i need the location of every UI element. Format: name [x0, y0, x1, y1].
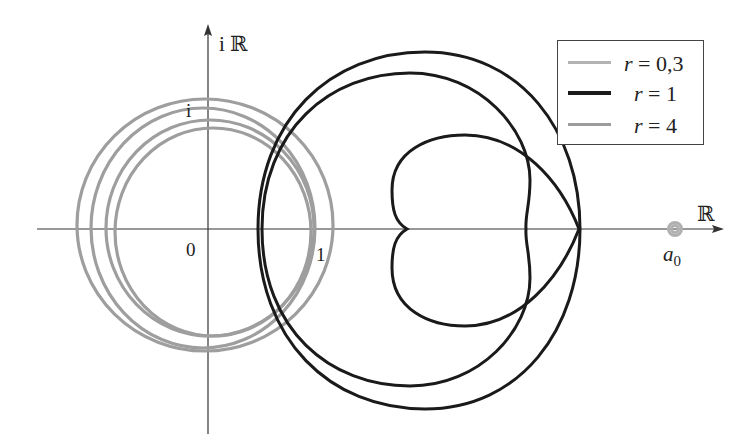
legend-label-r03: r = 0,3	[624, 51, 683, 77]
curve-r4	[77, 99, 333, 351]
legend-swatch-r03	[568, 61, 611, 64]
legend-label-r4: r = 4	[634, 113, 677, 139]
figure-canvas: i ℝ ℝ 0 1 i a0 r = 0,3 r = 1 r = 4	[0, 0, 754, 446]
x-unit-label: 1	[316, 245, 326, 264]
origin-label: 0	[186, 240, 196, 259]
point-a0-label: a0	[663, 244, 681, 269]
point-a0-subscript: 0	[674, 253, 682, 269]
x-axis-label: ℝ	[697, 204, 714, 225]
legend-item-r03: r = 0,3	[558, 49, 703, 77]
legend-swatch-r1	[568, 91, 611, 95]
y-axis-label: i ℝ	[219, 34, 248, 55]
legend: r = 0,3 r = 1 r = 4	[557, 40, 704, 145]
legend-label-r1: r = 1	[634, 81, 677, 107]
legend-swatch-r4	[568, 123, 611, 126]
curve-r1	[258, 52, 580, 409]
y-unit-label: i	[186, 101, 191, 120]
point-a0-name: a	[663, 242, 674, 266]
legend-item-r1: r = 1	[558, 79, 703, 107]
legend-item-r4: r = 4	[558, 111, 703, 139]
